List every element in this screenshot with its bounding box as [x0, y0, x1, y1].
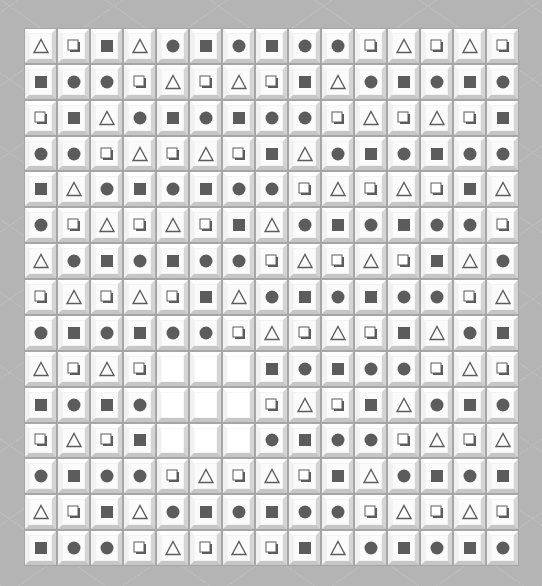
tile-hollow-square[interactable]	[124, 208, 155, 242]
tile-filled-circle[interactable]	[355, 352, 386, 386]
tile-hollow-square[interactable]	[487, 208, 518, 242]
tile-hollow-square[interactable]	[421, 172, 452, 206]
tile-hollow-square[interactable]	[256, 388, 287, 422]
tile-filled-circle[interactable]	[91, 65, 122, 99]
tile-filled-square[interactable]	[190, 172, 221, 206]
tile-filled-circle[interactable]	[487, 244, 518, 278]
tile-triangle-outline[interactable]	[223, 531, 254, 565]
tile-filled-square[interactable]	[25, 388, 56, 422]
tile-filled-circle[interactable]	[421, 531, 452, 565]
tile-triangle-outline[interactable]	[223, 65, 254, 99]
tile-triangle-outline[interactable]	[487, 172, 518, 206]
tile-triangle-outline[interactable]	[58, 424, 89, 458]
tile-filled-circle[interactable]	[124, 244, 155, 278]
tile-triangle-outline[interactable]	[124, 29, 155, 63]
tile-hollow-square[interactable]	[223, 137, 254, 171]
tile-filled-circle[interactable]	[322, 137, 353, 171]
tile-filled-circle[interactable]	[487, 65, 518, 99]
tile-hollow-square[interactable]	[223, 316, 254, 350]
tile-filled-square[interactable]	[58, 459, 89, 493]
empty-tile[interactable]	[190, 424, 221, 458]
tile-triangle-outline[interactable]	[124, 280, 155, 314]
tile-hollow-square[interactable]	[421, 29, 452, 63]
tile-hollow-square[interactable]	[355, 495, 386, 529]
tile-filled-square[interactable]	[91, 244, 122, 278]
tile-filled-circle[interactable]	[454, 208, 485, 242]
tile-triangle-outline[interactable]	[157, 531, 188, 565]
tile-filled-circle[interactable]	[322, 29, 353, 63]
tile-filled-square[interactable]	[322, 459, 353, 493]
tile-filled-circle[interactable]	[25, 208, 56, 242]
tile-filled-square[interactable]	[388, 316, 419, 350]
tile-filled-circle[interactable]	[157, 316, 188, 350]
tile-filled-square[interactable]	[223, 208, 254, 242]
tile-filled-square[interactable]	[91, 29, 122, 63]
tile-triangle-outline[interactable]	[289, 388, 320, 422]
tile-hollow-square[interactable]	[91, 280, 122, 314]
tile-filled-square[interactable]	[322, 352, 353, 386]
tile-triangle-outline[interactable]	[421, 101, 452, 135]
empty-tile[interactable]	[157, 424, 188, 458]
tile-hollow-square[interactable]	[388, 244, 419, 278]
empty-tile[interactable]	[190, 388, 221, 422]
tile-triangle-outline[interactable]	[157, 208, 188, 242]
tile-filled-square[interactable]	[388, 208, 419, 242]
tile-filled-square[interactable]	[388, 65, 419, 99]
tile-filled-square[interactable]	[124, 172, 155, 206]
tile-filled-square[interactable]	[289, 531, 320, 565]
tile-filled-square[interactable]	[289, 65, 320, 99]
tile-filled-square[interactable]	[388, 531, 419, 565]
tile-hollow-square[interactable]	[355, 316, 386, 350]
tile-hollow-square[interactable]	[124, 352, 155, 386]
tile-filled-circle[interactable]	[322, 280, 353, 314]
tile-filled-circle[interactable]	[256, 101, 287, 135]
tile-filled-square[interactable]	[454, 531, 485, 565]
tile-triangle-outline[interactable]	[256, 316, 287, 350]
tile-hollow-square[interactable]	[454, 101, 485, 135]
empty-tile[interactable]	[190, 352, 221, 386]
tile-filled-square[interactable]	[487, 101, 518, 135]
tile-triangle-outline[interactable]	[25, 29, 56, 63]
tile-triangle-outline[interactable]	[91, 352, 122, 386]
tile-filled-square[interactable]	[190, 29, 221, 63]
tile-hollow-square[interactable]	[58, 352, 89, 386]
tile-triangle-outline[interactable]	[91, 208, 122, 242]
tile-filled-circle[interactable]	[289, 495, 320, 529]
tile-filled-square[interactable]	[454, 65, 485, 99]
tile-hollow-square[interactable]	[355, 29, 386, 63]
tile-triangle-outline[interactable]	[322, 65, 353, 99]
tile-triangle-outline[interactable]	[25, 495, 56, 529]
tile-filled-circle[interactable]	[256, 172, 287, 206]
tile-hollow-square[interactable]	[322, 101, 353, 135]
tile-triangle-outline[interactable]	[58, 172, 89, 206]
tile-filled-circle[interactable]	[124, 388, 155, 422]
tile-filled-circle[interactable]	[454, 316, 485, 350]
empty-tile[interactable]	[223, 388, 254, 422]
tile-triangle-outline[interactable]	[388, 172, 419, 206]
tile-filled-circle[interactable]	[190, 101, 221, 135]
tile-triangle-outline[interactable]	[322, 531, 353, 565]
tile-filled-square[interactable]	[322, 208, 353, 242]
tile-filled-circle[interactable]	[223, 244, 254, 278]
tile-triangle-outline[interactable]	[454, 244, 485, 278]
tile-triangle-outline[interactable]	[25, 352, 56, 386]
tile-hollow-square[interactable]	[388, 101, 419, 135]
tile-hollow-square[interactable]	[289, 459, 320, 493]
tile-filled-circle[interactable]	[454, 459, 485, 493]
tile-triangle-outline[interactable]	[157, 65, 188, 99]
tile-hollow-square[interactable]	[322, 244, 353, 278]
tile-triangle-outline[interactable]	[256, 208, 287, 242]
tile-hollow-square[interactable]	[421, 495, 452, 529]
tile-filled-circle[interactable]	[58, 244, 89, 278]
tile-filled-circle[interactable]	[223, 29, 254, 63]
tile-filled-square[interactable]	[256, 352, 287, 386]
tile-filled-circle[interactable]	[355, 208, 386, 242]
tile-triangle-outline[interactable]	[25, 244, 56, 278]
tile-filled-circle[interactable]	[322, 424, 353, 458]
tile-filled-square[interactable]	[190, 280, 221, 314]
tile-filled-square[interactable]	[355, 388, 386, 422]
tile-triangle-outline[interactable]	[322, 172, 353, 206]
tile-hollow-square[interactable]	[454, 424, 485, 458]
tile-hollow-square[interactable]	[256, 531, 287, 565]
tile-filled-circle[interactable]	[421, 280, 452, 314]
